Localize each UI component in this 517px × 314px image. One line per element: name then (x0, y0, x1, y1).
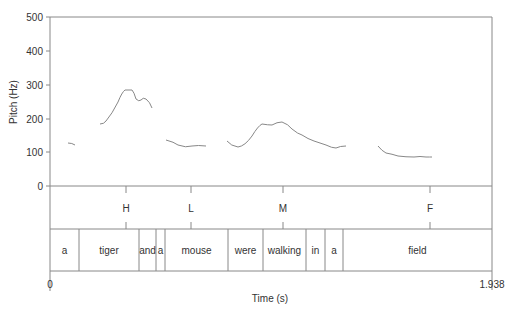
y-tick-label: 300 (26, 80, 43, 91)
word-tier: a tiger and a mouse were walking in a fi… (50, 229, 492, 271)
x-axis-label: Time (s) (252, 293, 288, 304)
y-tick-label: 0 (37, 181, 43, 192)
y-tick-label: 500 (26, 12, 43, 23)
word-label: and (139, 245, 156, 256)
tone-label-l: L (188, 203, 194, 214)
pitch-contour (68, 90, 432, 157)
tone-label-m: M (279, 203, 287, 214)
word-label: a (331, 245, 337, 256)
tone-label-h: H (122, 203, 129, 214)
word-label: were (234, 245, 257, 256)
word-label: field (408, 245, 426, 256)
y-ticks: 500 400 300 200 100 0 (26, 12, 50, 192)
x-start-label: 0 (47, 279, 53, 290)
tone-tier: H L M F (50, 186, 492, 229)
word-label: walking (267, 245, 301, 256)
word-label: tiger (99, 245, 119, 256)
word-label: a (158, 245, 164, 256)
word-label: in (312, 245, 320, 256)
y-tick-label: 200 (26, 114, 43, 125)
y-axis-label: Pitch (Hz) (8, 80, 19, 124)
y-tick-label: 400 (26, 46, 43, 57)
word-label: a (62, 245, 68, 256)
x-end-label: 1.938 (479, 279, 504, 290)
tone-label-f: F (427, 203, 433, 214)
word-label: mouse (181, 245, 211, 256)
y-tick-label: 100 (26, 147, 43, 158)
pitch-chart: 500 400 300 200 100 0 Pitch (Hz) H L M F (0, 0, 517, 314)
